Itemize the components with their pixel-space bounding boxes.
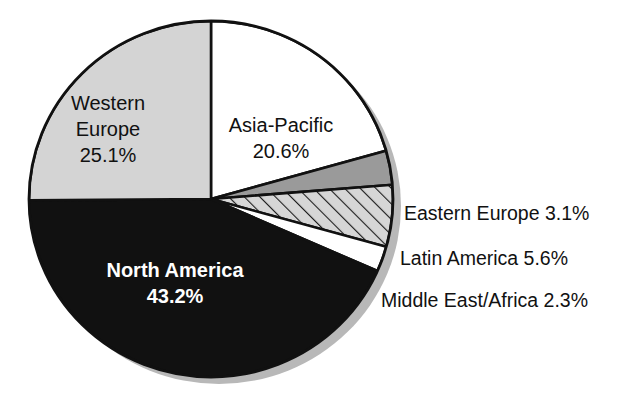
label-north-america-line2: 43.2% [147, 285, 204, 307]
label-asia-pacific-line1: Asia-Pacific [229, 114, 333, 136]
label-western-europe-line1: Western [71, 92, 145, 114]
label-western-europe-line2: Europe [76, 118, 141, 140]
label-middle-east-africa: Middle East/Africa 2.3% [381, 289, 588, 311]
label-asia-pacific-line2: 20.6% [253, 140, 310, 162]
label-eastern-europe: Eastern Europe 3.1% [404, 202, 589, 224]
label-western-europe-line3: 25.1% [80, 144, 137, 166]
label-western-europe: Western Europe 25.1% [71, 92, 145, 166]
pie-chart-figure: Western Europe 25.1% Asia-Pacific 20.6% … [0, 0, 622, 396]
label-latin-america: Latin America 5.6% [400, 247, 568, 269]
label-north-america-line1: North America [106, 259, 244, 281]
pie-chart-svg: Western Europe 25.1% Asia-Pacific 20.6% … [0, 0, 622, 396]
